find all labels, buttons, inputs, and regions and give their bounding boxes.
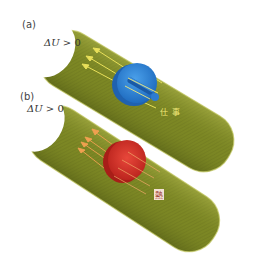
panel-b-label: (b): [20, 91, 34, 102]
panel-a-condition: ΔU > 0: [44, 37, 81, 48]
work-label: 仕事: [160, 106, 184, 117]
panel-a-label: (a): [22, 19, 36, 30]
relation: > 0: [60, 37, 81, 48]
panel-b-condition: ΔU > 0: [27, 103, 64, 114]
diagram-canvas: [0, 0, 267, 270]
relation: > 0: [43, 103, 64, 114]
delta-u-symbol: ΔU: [44, 37, 60, 48]
heat-label: 熱: [154, 189, 164, 200]
delta-u-symbol: ΔU: [27, 103, 43, 114]
